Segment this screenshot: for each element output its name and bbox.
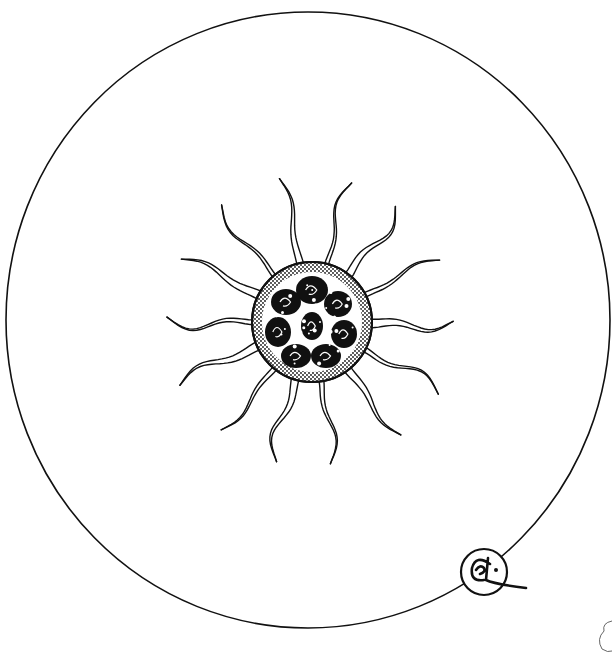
ray [342, 365, 401, 435]
corner-mark [599, 621, 612, 652]
ray [368, 319, 453, 332]
ray [280, 179, 305, 268]
ray [167, 317, 256, 330]
heliozoan-drawing [0, 0, 612, 662]
ray [222, 205, 278, 280]
ray [344, 206, 396, 280]
ray [181, 259, 264, 300]
ray [180, 340, 263, 385]
illustration-canvas: Radiolarian / sun-animalcule (heliozoan)… [0, 0, 612, 662]
ray [361, 346, 439, 395]
ray [361, 260, 440, 298]
central-body [252, 262, 372, 382]
signature-monogram [461, 549, 526, 595]
ray [324, 183, 352, 268]
ray [221, 364, 279, 430]
ray [270, 375, 300, 462]
ray [319, 377, 338, 464]
